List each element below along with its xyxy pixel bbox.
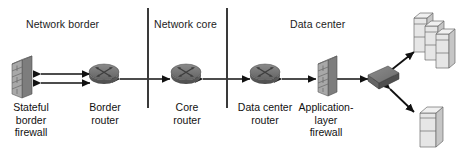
firewall-icon [12,56,32,98]
label-line: Stateful [0,101,62,114]
connector-switch-server-single [390,89,414,112]
zone-label-network-border: Network border [26,18,99,30]
zone-label-data-center: Data center [290,18,345,30]
server-icon [420,107,443,147]
label-line: border [0,114,62,127]
label-line: firewall [289,126,363,139]
label-line: router [74,114,136,127]
network-topology-diagram: Network border Network core Data center … [0,0,468,157]
border-core-divider [147,8,149,108]
label-line: Core [156,101,218,114]
node-label-core-router: Core router [156,101,218,126]
label-line: router [156,114,218,127]
router-icon [171,64,201,84]
router-icon [250,64,280,84]
label-line: Application- [289,101,363,114]
label-line: Border [74,101,136,114]
switch-icon [368,66,399,89]
server-stack-icon [414,13,455,68]
node-label-border-router: Border router [74,101,136,126]
connector-switch-server-group [390,52,414,71]
router-icon [89,64,119,84]
core-datacenter-divider [226,8,228,108]
node-label-stateful-border-firewall: Stateful border firewall [0,101,62,139]
node-label-application-layer-firewall: Application- layer firewall [289,101,363,139]
firewall-icon [318,56,337,96]
label-line: firewall [0,126,62,139]
label-line: layer [289,114,363,127]
zone-label-network-core: Network core [154,18,217,30]
